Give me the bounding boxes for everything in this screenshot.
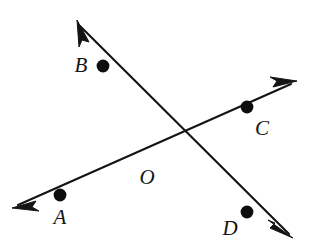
point-dot-d <box>241 206 254 219</box>
geometry-figure: B A O C D <box>0 0 319 251</box>
point-label-o: O <box>139 167 154 188</box>
figure-background <box>0 0 319 251</box>
point-dot-c <box>241 101 254 114</box>
point-label-c: C <box>255 118 269 139</box>
diagram-canvas <box>0 0 319 251</box>
point-label-d: D <box>222 218 237 239</box>
point-label-b: B <box>75 55 88 76</box>
point-dot-b <box>97 60 110 73</box>
point-label-a: A <box>54 207 67 228</box>
point-dot-a <box>54 189 67 202</box>
